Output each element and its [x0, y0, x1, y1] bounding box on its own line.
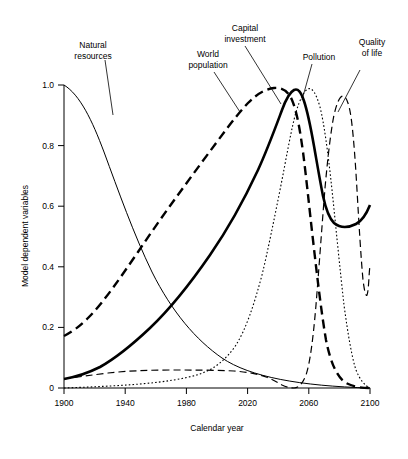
series-quality-of-life [64, 96, 370, 388]
annotation-pollution-line1: Pollution [303, 52, 336, 62]
leader-quality-of-life [338, 70, 360, 112]
chart-container: 0 0.2 0.4 0.6 0.8 1.0 1900 1940 1980 202… [0, 0, 408, 459]
annotation-capital-investment: Capital investment [224, 23, 266, 44]
x-tick-label-2: 1980 [177, 398, 196, 408]
y-tick-label-0: 0 [49, 383, 54, 393]
annotation-natural-resources-line2: resources [74, 51, 111, 61]
annotation-capital-investment-line1: Capital [232, 23, 259, 33]
annotation-natural-resources-line1: Natural [79, 40, 107, 50]
series-pollution [64, 89, 370, 388]
annotation-pollution: Pollution [303, 52, 336, 62]
annotation-quality-of-life: Quality of life [359, 37, 386, 58]
annotation-quality-of-life-line2: of life [362, 48, 383, 58]
leader-pollution [302, 64, 312, 100]
y-tick-label-2: 0.4 [42, 262, 54, 272]
axes [58, 85, 370, 394]
x-tick-label-4: 2060 [299, 398, 318, 408]
x-tick-labels: 1900 1940 1980 2020 2060 2100 [55, 398, 380, 408]
annotation-capital-investment-line2: investment [224, 34, 266, 44]
series-world-population [64, 88, 370, 388]
y-axis-title: Model dependent variables [20, 185, 30, 287]
annotation-world-population-line1: World [197, 49, 219, 59]
y-tick-label-3: 0.6 [42, 201, 54, 211]
leader-natural-resources [105, 60, 113, 115]
annotation-natural-resources: Natural resources [74, 40, 111, 61]
y-tick-label-5: 1.0 [42, 80, 54, 90]
annotation-world-population: World population [188, 49, 228, 70]
annotation-world-population-line2: population [188, 60, 228, 70]
x-axis-title: Calendar year [190, 423, 244, 433]
leader-world-population [214, 72, 240, 112]
line-chart: 0 0.2 0.4 0.6 0.8 1.0 1900 1940 1980 202… [0, 0, 408, 459]
leader-capital-investment [245, 46, 281, 104]
y-tick-label-1: 0.2 [42, 322, 54, 332]
x-tick-label-5: 2100 [361, 398, 380, 408]
x-tick-label-3: 2020 [238, 398, 257, 408]
annotation-quality-of-life-line1: Quality [359, 37, 386, 47]
y-tick-label-4: 0.8 [42, 141, 54, 151]
x-tick-label-1: 1940 [116, 398, 135, 408]
x-tick-label-0: 1900 [55, 398, 74, 408]
y-tick-labels: 0 0.2 0.4 0.6 0.8 1.0 [42, 80, 54, 393]
